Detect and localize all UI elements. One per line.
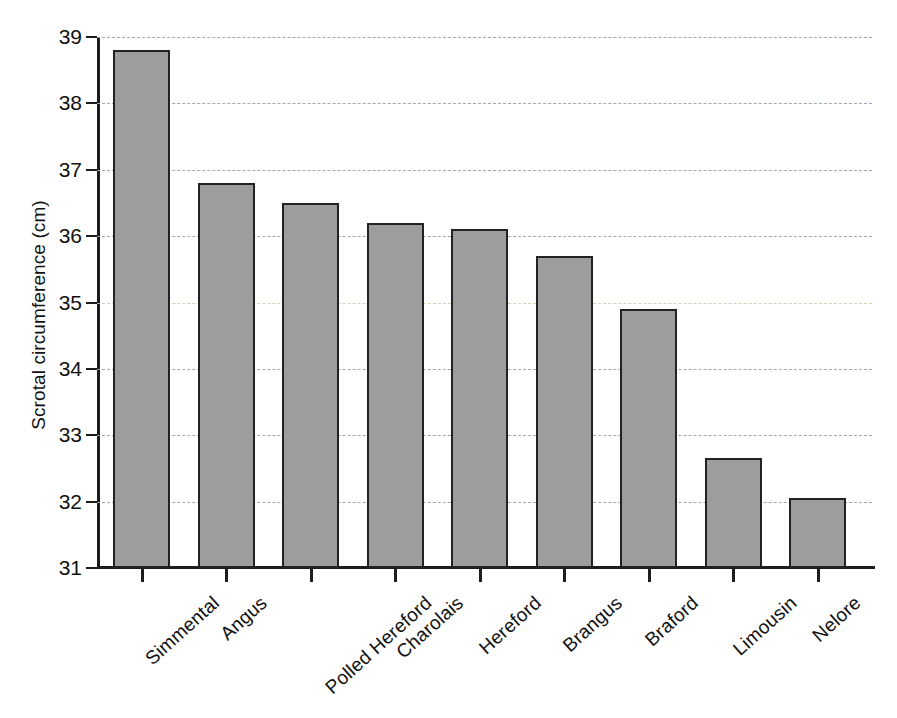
y-axis-tick-label: 31 xyxy=(48,557,82,578)
y-axis-tick-label: 33 xyxy=(48,424,82,445)
x-axis-category-label: Simmental xyxy=(141,592,224,670)
bar xyxy=(282,203,339,568)
y-axis-tick-label-wrap: 33 xyxy=(40,424,82,446)
y-axis-tick xyxy=(86,434,97,436)
x-axis-tick xyxy=(225,569,228,582)
y-axis-tick-label-wrap: 35 xyxy=(40,292,82,314)
gridline xyxy=(97,37,872,38)
y-axis-tick-label-wrap: 37 xyxy=(40,159,82,181)
bar xyxy=(705,458,762,568)
y-axis-tick xyxy=(86,169,97,171)
y-axis-tick xyxy=(86,235,97,237)
bar xyxy=(198,183,255,568)
y-axis-tick-label-wrap: 34 xyxy=(40,358,82,380)
x-axis-tick xyxy=(817,569,820,582)
y-axis-tick-label-wrap: 38 xyxy=(40,92,82,114)
x-axis-tick xyxy=(141,569,144,582)
y-axis-tick xyxy=(86,368,97,370)
y-axis-tick xyxy=(86,501,97,503)
bar xyxy=(536,256,593,568)
y-axis-tick xyxy=(86,567,97,569)
x-axis-category-label: Nelore xyxy=(808,592,865,647)
x-axis-category-label: Braford xyxy=(641,592,703,651)
y-axis-tick xyxy=(86,102,97,104)
y-axis-tick-label: 34 xyxy=(48,358,82,379)
bar xyxy=(620,309,677,568)
y-axis-tick xyxy=(86,36,97,38)
x-axis-category-label: Hereford xyxy=(475,592,546,659)
gridline xyxy=(97,170,872,171)
bar xyxy=(451,229,508,568)
x-axis-category-label: Limousin xyxy=(729,592,801,660)
bar-chart: Scrotal circumference (cm) 3938373635343… xyxy=(0,0,897,718)
bar xyxy=(367,223,424,568)
x-axis-category-label: Brangus xyxy=(559,592,627,657)
y-axis-tick xyxy=(86,302,97,304)
x-axis-tick xyxy=(563,569,566,582)
x-axis-tick xyxy=(732,569,735,582)
y-axis-tick-label: 38 xyxy=(48,92,82,113)
bar xyxy=(789,498,846,568)
y-axis-tick-label: 36 xyxy=(48,225,82,246)
y-axis-tick-label: 39 xyxy=(48,26,82,47)
y-axis-tick-label-wrap: 32 xyxy=(40,491,82,513)
y-axis-tick-label-wrap: 31 xyxy=(40,557,82,579)
y-axis-tick-label-wrap: 39 xyxy=(40,26,82,48)
y-axis-tick-label: 35 xyxy=(48,292,82,313)
y-axis-tick-label: 32 xyxy=(48,491,82,512)
x-axis-tick xyxy=(310,569,313,582)
bar xyxy=(113,50,170,568)
x-axis-tick xyxy=(479,569,482,582)
y-axis-tick-label-wrap: 36 xyxy=(40,225,82,247)
y-axis-tick-label: 37 xyxy=(48,159,82,180)
x-axis-tick xyxy=(648,569,651,582)
x-axis-tick xyxy=(394,569,397,582)
x-axis-category-label: Angus xyxy=(216,592,272,645)
gridline xyxy=(97,103,872,104)
